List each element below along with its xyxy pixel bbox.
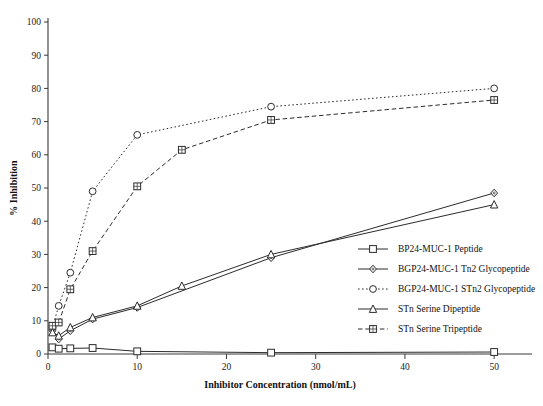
x-tick-label: 0 bbox=[46, 362, 51, 372]
data-point-marker bbox=[134, 348, 141, 355]
x-tick-label: 10 bbox=[132, 362, 142, 372]
data-point-marker bbox=[134, 131, 141, 138]
chart-canvas: 0102030405060708090100 01020304050 BP24-… bbox=[0, 0, 543, 406]
legend-label: BP24-MUC-1 Peptide bbox=[398, 244, 483, 254]
inhibition-chart: 0102030405060708090100 01020304050 BP24-… bbox=[0, 0, 543, 406]
y-tick-label: 60 bbox=[32, 150, 42, 160]
x-axis-title: Inhibitor Concentration (nmol/mL) bbox=[204, 379, 356, 391]
data-point-marker bbox=[67, 345, 74, 352]
y-tick-label: 10 bbox=[32, 316, 42, 326]
data-point-marker bbox=[370, 246, 377, 253]
x-tick-label: 30 bbox=[311, 362, 321, 372]
legend-entry-4: STn Serine Tripeptide bbox=[358, 324, 482, 334]
x-tick-label: 20 bbox=[222, 362, 232, 372]
y-tick-label: 20 bbox=[32, 283, 42, 293]
legend-label: STn Serine Dipeptide bbox=[398, 304, 480, 314]
y-tick-label: 90 bbox=[32, 51, 42, 61]
data-point-marker bbox=[370, 286, 377, 293]
data-point-marker bbox=[55, 302, 62, 309]
legend-label: STn Serine Tripeptide bbox=[398, 324, 482, 334]
data-point-marker bbox=[268, 103, 275, 110]
y-axis-title: % Inhibition bbox=[8, 160, 19, 216]
data-point-marker bbox=[67, 269, 74, 276]
x-tick-label: 50 bbox=[489, 362, 499, 372]
chart-background bbox=[0, 0, 543, 406]
y-tick-label: 70 bbox=[32, 117, 42, 127]
y-tick-label: 0 bbox=[36, 349, 41, 359]
y-tick-label: 80 bbox=[32, 84, 42, 94]
y-tick-label: 50 bbox=[32, 183, 42, 193]
data-point-marker bbox=[89, 188, 96, 195]
y-tick-label: 40 bbox=[32, 217, 42, 227]
data-point-marker bbox=[491, 349, 498, 356]
x-tick-label: 40 bbox=[400, 362, 410, 372]
y-tick-label: 100 bbox=[27, 17, 42, 27]
y-tick-label: 30 bbox=[32, 250, 42, 260]
data-point-marker bbox=[268, 349, 275, 356]
data-point-marker bbox=[89, 345, 96, 352]
legend-entry-0: BP24-MUC-1 Peptide bbox=[358, 244, 483, 254]
data-point-marker bbox=[55, 345, 62, 352]
legend-label: BGP24-MUC-1 Tn2 Glycopeptide bbox=[398, 264, 530, 274]
data-point-marker bbox=[491, 85, 498, 92]
legend-label: BGP24-MUC-1 STn2 Glycopeptide bbox=[398, 284, 535, 294]
